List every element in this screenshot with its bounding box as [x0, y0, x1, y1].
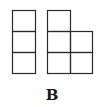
shape-left-column: [13, 11, 36, 74]
figure-label: B: [0, 86, 104, 104]
shape-right-l: [48, 11, 93, 74]
